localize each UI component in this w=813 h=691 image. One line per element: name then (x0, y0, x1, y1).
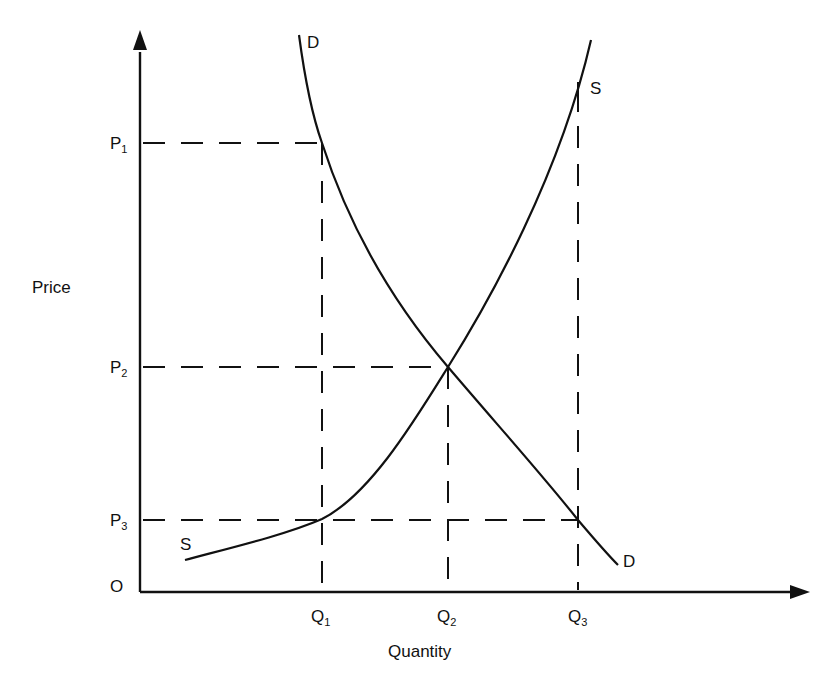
p2-label: P2 (110, 358, 127, 379)
origin-label: O (110, 577, 123, 596)
axes (140, 52, 798, 592)
y-axis-title: Price (32, 278, 71, 297)
demand-top-label: D (307, 33, 319, 52)
y-axis-arrow-icon (133, 30, 147, 50)
supply-bottom-label: S (180, 535, 191, 554)
guide-lines (143, 88, 578, 590)
x-axis-title: Quantity (388, 642, 452, 661)
supply-curve (185, 40, 591, 560)
x-axis-arrow-icon (790, 585, 810, 599)
supply-top-label: S (590, 79, 601, 98)
demand-bottom-label: D (623, 552, 635, 571)
q1-label: Q1 (311, 607, 330, 628)
p1-label: P1 (110, 134, 127, 155)
q3-label: Q3 (568, 607, 587, 628)
q2-label: Q2 (437, 607, 456, 628)
p3-label: P3 (110, 511, 127, 532)
supply-demand-diagram: D S S D P1 P2 P3 O Q1 Q2 Q3 Price Quanti… (0, 0, 813, 691)
